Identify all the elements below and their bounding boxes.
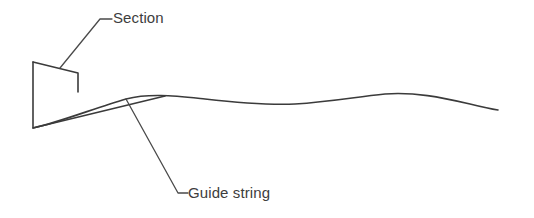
section-leader-line xyxy=(60,19,112,68)
section-profile-top-edge xyxy=(33,62,78,92)
diagram-canvas: Section Guide string xyxy=(0,0,534,218)
guide-string-leader-line xyxy=(126,99,188,193)
guide-string-label: Guide string xyxy=(188,185,270,200)
section-profile-left-and-bottom-edge xyxy=(33,62,165,128)
section-label: Section xyxy=(113,10,164,25)
